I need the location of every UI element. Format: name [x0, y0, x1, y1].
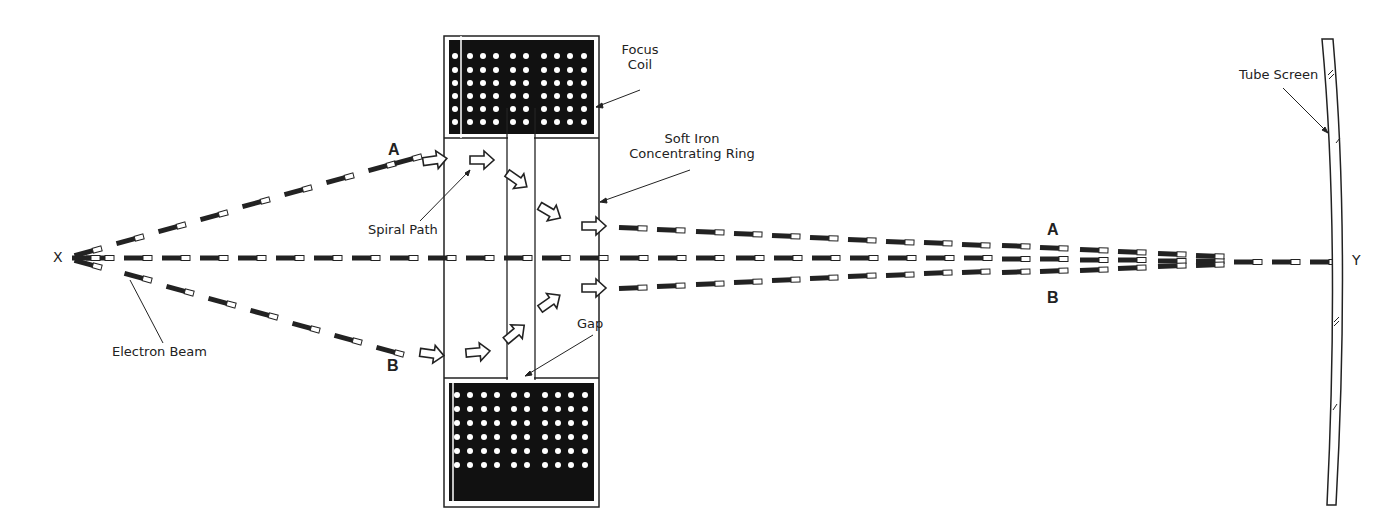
- tube-screen-label: Tube Screen: [1239, 67, 1318, 82]
- soft-iron-ring-label: Soft Iron Concentrating Ring: [622, 131, 762, 161]
- path-b-right-label: B: [1047, 290, 1059, 305]
- path-a-left-label: A: [388, 142, 400, 157]
- tube-screen: [1322, 39, 1342, 505]
- diagram-canvas: [0, 0, 1394, 510]
- point-x-label: X: [53, 250, 63, 265]
- focus-coil-label-line1: Focus: [610, 42, 670, 57]
- spiral-arrows-upper: [422, 149, 606, 235]
- beam-path-a-right: [619, 225, 1224, 259]
- beam-path-b-right: [619, 262, 1224, 291]
- focus-coil-label: Focus Coil: [610, 42, 670, 72]
- soft-iron-label-line1: Soft Iron: [622, 131, 762, 146]
- soft-iron-label-line2: Concentrating Ring: [622, 146, 762, 161]
- beam-origin-cluster: [72, 246, 102, 270]
- spiral-path-label: Spiral Path: [368, 222, 438, 237]
- beam-center-path: [86, 256, 1338, 265]
- path-a-right-label: A: [1047, 222, 1059, 237]
- bottom-coil-winding: [449, 383, 594, 501]
- gap-label: Gap: [577, 316, 603, 331]
- path-b-left-label: B: [387, 358, 399, 373]
- electron-beam-label: Electron Beam: [112, 344, 207, 359]
- point-y-label: Y: [1352, 253, 1361, 268]
- focus-coil-assembly: [444, 36, 599, 507]
- focus-coil-label-line2: Coil: [610, 57, 670, 72]
